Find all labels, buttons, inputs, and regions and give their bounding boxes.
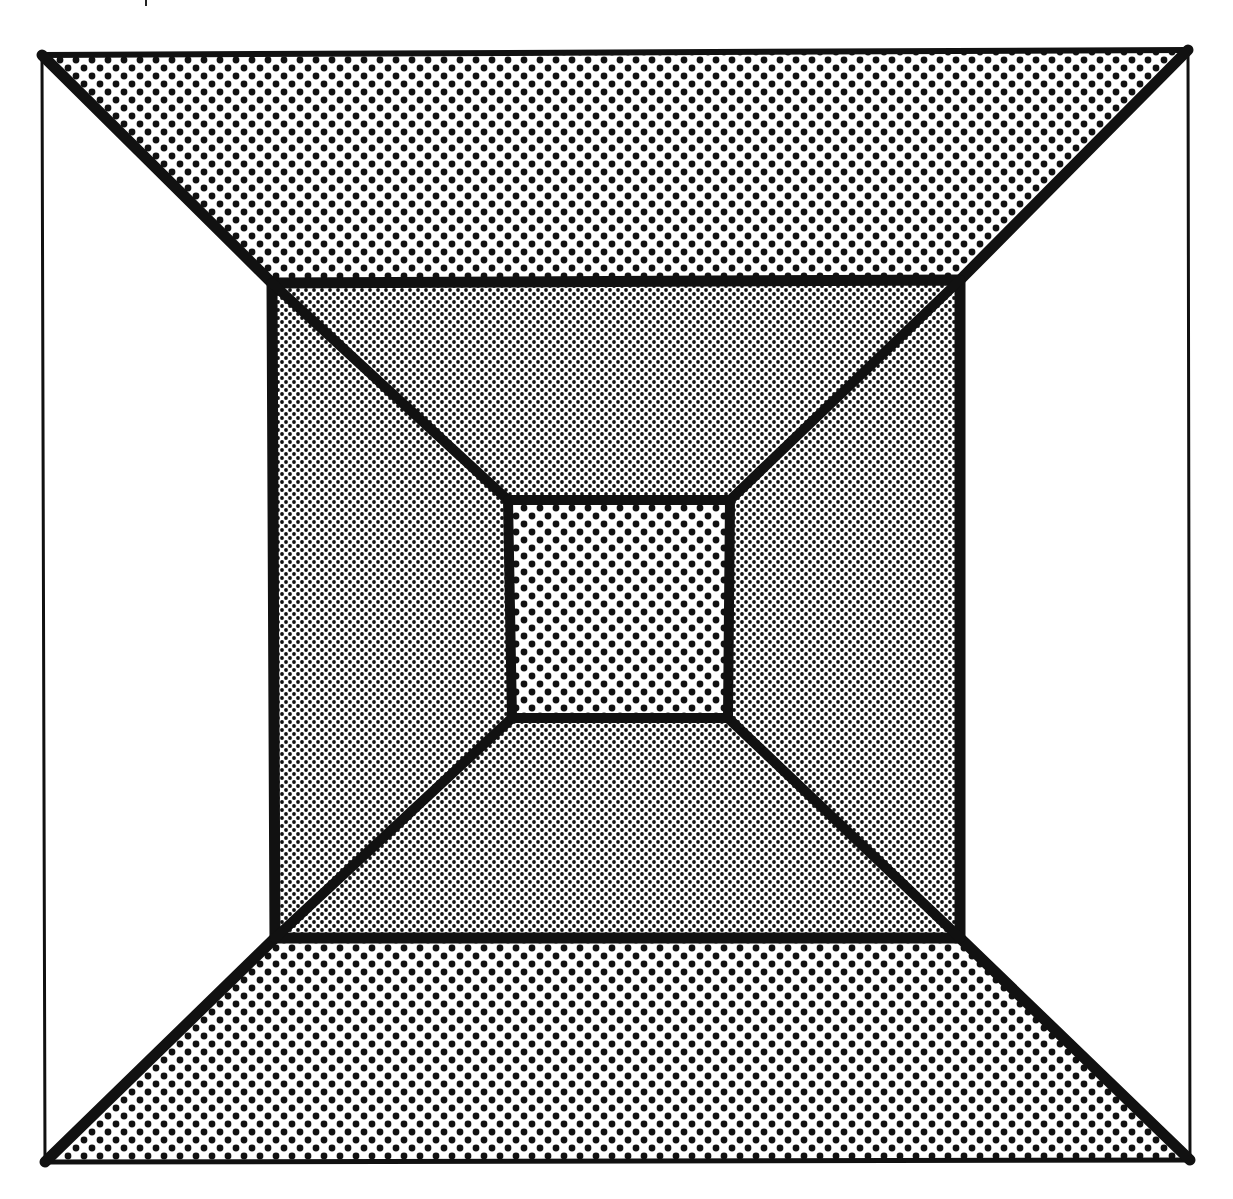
outer-frame-bottom-edge (45, 1160, 1190, 1162)
inner-square (508, 500, 730, 718)
tunnel-figure (0, 0, 1233, 1199)
